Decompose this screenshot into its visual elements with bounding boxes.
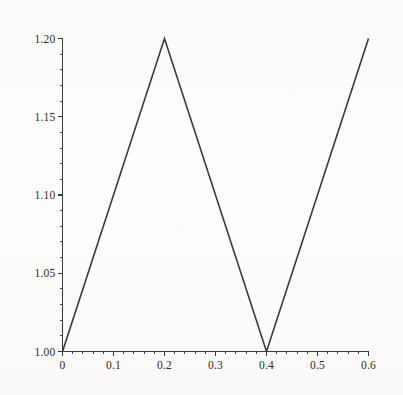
y-tick-label-1.00: 1.00 bbox=[35, 346, 56, 358]
x-axis-major-ticks bbox=[63, 352, 369, 357]
y-tick-label-1.10: 1.10 bbox=[35, 189, 56, 201]
y-tick-label-1.20: 1.20 bbox=[35, 33, 56, 45]
plot-area bbox=[0, 0, 403, 395]
x-tick-label-0.3: 0.3 bbox=[208, 359, 223, 371]
data-series-group bbox=[63, 39, 369, 352]
x-tick-label-0.5: 0.5 bbox=[310, 359, 325, 371]
x-tick-label-0.6: 0.6 bbox=[361, 359, 376, 371]
x-tick-label-0: 0 bbox=[60, 359, 66, 371]
data-line-series-0 bbox=[63, 39, 369, 352]
x-tick-label-0.1: 0.1 bbox=[106, 359, 121, 371]
x-tick-label-0.2: 0.2 bbox=[157, 359, 172, 371]
chart-figure: 1.001.051.101.151.20 00.10.20.30.40.50.6 bbox=[0, 0, 403, 395]
x-tick-label-0.4: 0.4 bbox=[259, 359, 274, 371]
y-tick-label-1.15: 1.15 bbox=[35, 111, 56, 123]
y-tick-label-1.05: 1.05 bbox=[35, 267, 56, 279]
